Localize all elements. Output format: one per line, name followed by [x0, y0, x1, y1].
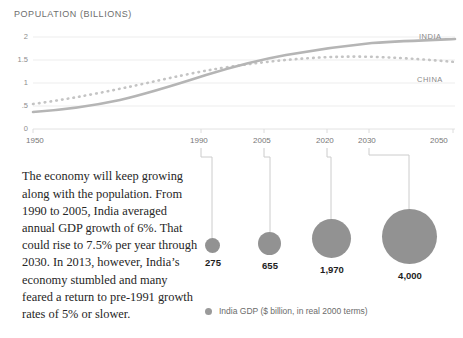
legend-label-india-gdp: India GDP ($ billion, in real 2000 terms…	[219, 306, 368, 316]
population-line-chart: 2 1.5 1 .5 0 1950 1990 2005 2020 2030 20…	[0, 0, 463, 140]
bubble-legend: India GDP ($ billion, in real 2000 terms…	[205, 306, 368, 316]
x-tick-label-2030: 2030	[358, 136, 376, 145]
leader-line-2030	[369, 148, 409, 209]
y-tick-label-1: 1	[6, 78, 28, 87]
x-tick-label-1950: 1950	[26, 136, 44, 145]
infographic-root: POPULATION (BILLIONS)	[0, 0, 463, 338]
gdp-bubble-value-2005: 655	[262, 260, 278, 271]
series-label-china: CHINA	[417, 75, 443, 84]
gdp-bubble-1990	[205, 238, 220, 253]
y-tick-label-2: 2	[6, 32, 28, 41]
body-paragraph: The economy will keep growing along with…	[22, 168, 200, 323]
y-tick-label-1-5: 1.5	[6, 55, 28, 64]
x-tick-label-1990: 1990	[190, 136, 208, 145]
line-chart-svg	[0, 0, 463, 140]
gdp-bubble-value-2030: 4,000	[398, 270, 422, 281]
gdp-bubble-2005	[258, 232, 281, 255]
x-tick-label-2050: 2050	[430, 136, 448, 145]
y-tick-label-0-5: .5	[6, 101, 28, 110]
leader-line-1990	[201, 148, 212, 238]
leader-line-2020	[327, 148, 331, 219]
series-line-india	[33, 39, 455, 112]
series-label-india: INDIA	[419, 32, 442, 41]
gdp-bubble-2020	[312, 219, 351, 258]
gdp-bubble-value-2020: 1,970	[320, 264, 344, 275]
x-axis-ticks	[33, 129, 453, 133]
legend-circle-icon	[205, 308, 212, 315]
y-tick-label-0: 0	[6, 124, 28, 133]
gridlines	[33, 37, 455, 129]
x-tick-label-2005: 2005	[253, 136, 271, 145]
gdp-bubble-value-1990: 275	[205, 257, 221, 268]
leader-line-2005	[264, 148, 270, 232]
gdp-bubble-2030	[382, 209, 437, 264]
x-tick-label-2020: 2020	[316, 136, 334, 145]
